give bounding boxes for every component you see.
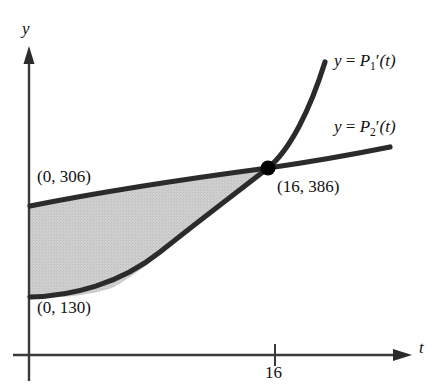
curve-label-p2-prime: y = P2′(t) (334, 118, 396, 138)
t-axis-arrowhead (393, 349, 412, 361)
y-axis-label: y (22, 20, 30, 37)
curve-label-p2-fn: P (360, 117, 370, 136)
curve-label-p1-prime: y = P1′(t) (334, 52, 396, 72)
curve-label-p2-equals: = (346, 117, 356, 136)
point-label-intersection: (16, 386) (277, 178, 339, 195)
figure-area-between-derivative-curves: y t 16 (0, 306) (0, 130) (16, 386) y = P… (0, 0, 438, 391)
x-tick-label-16: 16 (265, 364, 282, 381)
curve-label-p1-arg: (t) (380, 51, 396, 70)
t-axis-label: t (419, 339, 424, 356)
curve-label-p1-equals: = (346, 51, 356, 70)
point-label-p1-intercept: (0, 130) (37, 299, 91, 316)
y-axis-arrowhead (24, 46, 35, 64)
intersection-point-marker (261, 161, 276, 176)
curve-label-p2-arg: (t) (380, 117, 396, 136)
curve-label-p2-lhs: y (334, 117, 342, 136)
curve-label-p1-lhs: y (334, 51, 342, 70)
curve-label-p1-fn: P (360, 51, 370, 70)
point-label-p2-intercept: (0, 306) (37, 168, 91, 185)
